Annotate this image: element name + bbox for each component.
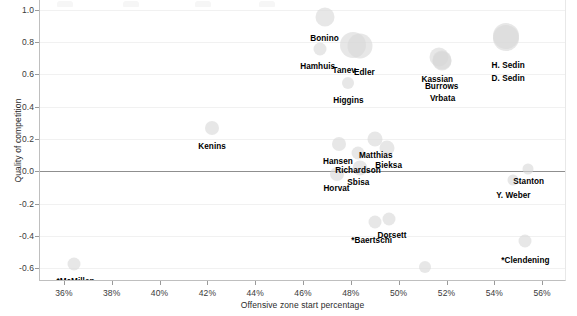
- x-axis-tick-label: 50%: [390, 288, 407, 298]
- data-point-bubble: [348, 34, 373, 59]
- data-point-label: Kenins: [198, 142, 226, 151]
- x-axis-tick-mark: [351, 281, 352, 285]
- gridline-horizontal: [40, 139, 565, 140]
- y-axis-tick-mark: [35, 74, 39, 75]
- data-point-label: Bonino: [310, 34, 339, 43]
- data-point-bubble: [522, 163, 533, 174]
- x-axis-tick-label: 38%: [103, 288, 120, 298]
- data-point-bubble: [493, 25, 519, 51]
- plot-area: BoninoHamhuisTanevEdlerHigginsKassianBur…: [39, 0, 566, 281]
- data-point-label: Dorsett: [378, 230, 407, 239]
- x-axis-tick-label: 40%: [151, 288, 168, 298]
- data-point-bubble: [432, 50, 451, 69]
- gridline-horizontal: [40, 236, 565, 237]
- data-point-label: H. Sedin: [492, 61, 525, 70]
- x-axis-tick-label: 46%: [294, 288, 311, 298]
- data-point-bubble: [430, 48, 449, 67]
- x-axis-tick-mark: [303, 281, 304, 285]
- data-point-label: Vrbata: [430, 93, 455, 102]
- x-axis-tick-label: 54%: [486, 288, 503, 298]
- y-axis-tick-mark: [35, 10, 39, 11]
- data-point-label: *Clendening: [501, 255, 549, 264]
- data-point-label: Vey: [418, 279, 432, 281]
- data-point-label: Tanev: [333, 66, 356, 75]
- y-axis-tick-mark: [35, 171, 39, 172]
- zero-reference-line: [40, 171, 565, 172]
- data-point-bubble: [432, 51, 451, 70]
- gridline-horizontal: [40, 74, 565, 75]
- y-axis-tick-mark: [35, 268, 39, 269]
- gridline-horizontal: [40, 42, 565, 43]
- bubble-chart: BoninoHamhuisTanevEdlerHigginsKassianBur…: [0, 0, 577, 316]
- y-axis-tick-mark: [35, 42, 39, 43]
- y-axis-tick-mark: [35, 107, 39, 108]
- y-axis-tick-mark: [35, 204, 39, 205]
- gridline-horizontal: [40, 107, 565, 108]
- x-axis-tick-mark: [160, 281, 161, 285]
- data-point-bubble: [342, 77, 354, 89]
- y-axis-tick-mark: [35, 236, 39, 237]
- x-axis-tick-mark: [399, 281, 400, 285]
- data-point-bubble: [205, 121, 219, 135]
- data-point-bubble: [313, 43, 326, 56]
- x-axis-tick-mark: [447, 281, 448, 285]
- data-point-label: Y. Weber: [496, 191, 530, 200]
- x-axis-tick-mark: [112, 281, 113, 285]
- x-axis-tick-label: 44%: [247, 288, 264, 298]
- x-axis-title: Offensive zone start percentage: [39, 300, 566, 310]
- data-point-label: Higgins: [333, 96, 363, 105]
- data-point-label: Horvat: [323, 184, 349, 193]
- y-axis-title: Quality of competition: [13, 0, 26, 281]
- x-axis-tick-mark: [542, 281, 543, 285]
- data-point-label: Stanton: [513, 176, 544, 185]
- data-point-label: Matthias: [359, 150, 393, 159]
- data-point-bubble: [368, 216, 381, 229]
- data-point-bubble: [383, 212, 396, 225]
- gridline-horizontal: [40, 204, 565, 205]
- data-point-label: D. Sedin: [492, 74, 525, 83]
- data-point-bubble: [493, 23, 519, 49]
- x-axis-tick-label: 48%: [342, 288, 359, 298]
- data-point-label: Hansen: [323, 156, 353, 165]
- x-axis-tick-mark: [494, 281, 495, 285]
- gridline-horizontal: [40, 10, 565, 11]
- gridline-horizontal: [40, 268, 565, 269]
- data-point-label: Sbisa: [347, 178, 369, 187]
- data-point-label: Burrows: [425, 81, 459, 90]
- x-axis-tick-label: 52%: [438, 288, 455, 298]
- x-axis-tick-mark: [207, 281, 208, 285]
- data-point-label: Hamhuis: [300, 62, 335, 71]
- data-point-label: Richardson: [335, 166, 381, 175]
- y-axis-tick-mark: [35, 139, 39, 140]
- x-axis-tick-label: 42%: [199, 288, 216, 298]
- x-axis-tick-mark: [255, 281, 256, 285]
- data-point-bubble: [419, 261, 431, 273]
- data-point-label: Edler: [354, 68, 375, 77]
- x-axis-tick-label: 56%: [533, 288, 550, 298]
- data-point-bubble: [340, 32, 366, 58]
- data-point-label: *McMillan: [56, 277, 94, 282]
- x-axis-tick-mark: [64, 281, 65, 285]
- x-axis-tick-label: 36%: [55, 288, 72, 298]
